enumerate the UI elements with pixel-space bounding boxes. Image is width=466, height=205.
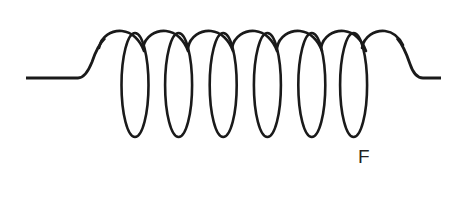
coil-diagram-svg <box>0 0 466 205</box>
coil-turn-3 <box>210 33 237 137</box>
coil-turn-5 <box>298 33 325 137</box>
coil-turn-4 <box>254 33 281 137</box>
force-label: F <box>358 147 370 166</box>
figure-canvas: F <box>0 0 466 205</box>
coil-turn-1 <box>122 33 149 137</box>
left-lead-wire <box>26 38 105 78</box>
coil-turn-6 <box>340 33 367 137</box>
coil-turn-2 <box>165 33 192 137</box>
